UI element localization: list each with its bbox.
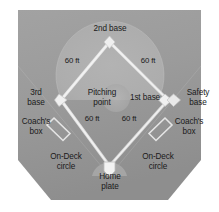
label-third-base: 3rd base: [18, 88, 54, 107]
label-coach-box-left: Coach's box: [14, 117, 58, 136]
label-pitching-point: Pitching point: [76, 88, 128, 107]
label-home-plate: Home plate: [87, 172, 133, 191]
label-on-deck-circle-right: On-Deck circle: [132, 152, 184, 171]
label-safety-base: Safety base: [178, 88, 218, 107]
label-distance-home-to-third: 60 ft: [75, 114, 109, 124]
label-coach-box-right: Coach's box: [167, 117, 211, 136]
label-distance-home-to-first: 60 ft: [112, 114, 146, 124]
label-on-deck-circle-left: On-Deck circle: [40, 152, 92, 171]
label-first-base: 1st base: [126, 93, 164, 103]
label-distance-third-to-second: 60 ft: [55, 56, 89, 66]
label-second-base: 2nd base: [83, 24, 137, 34]
field-diagram: 2nd base 60 ft 60 ft 3rd base Pitching p…: [0, 0, 219, 212]
label-distance-second-to-first: 60 ft: [131, 56, 165, 66]
